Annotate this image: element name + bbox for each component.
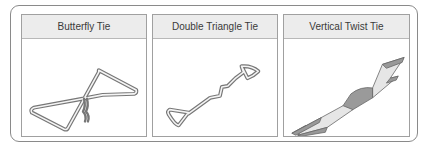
panel-vertical-twist-tie: Vertical Twist Tie [283, 14, 410, 137]
panel-double-triangle-tie: Double Triangle Tie [152, 14, 278, 137]
butterfly-tie-icon [22, 38, 146, 136]
panel-butterfly-tie: Butterfly Tie [21, 14, 147, 137]
vertical-twist-tie-icon [284, 38, 409, 136]
panel-title: Double Triangle Tie [153, 15, 277, 39]
panel-title: Butterfly Tie [22, 15, 146, 39]
double-triangle-tie-icon [153, 38, 277, 136]
panel-title: Vertical Twist Tie [284, 15, 409, 39]
